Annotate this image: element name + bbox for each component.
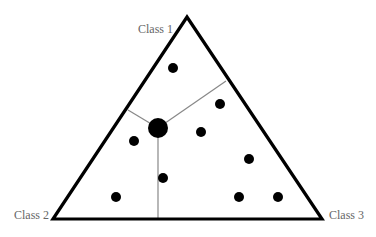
data-point [111,192,121,202]
data-point [168,63,178,73]
vertex-label-class1: Class 1 [138,22,173,36]
centroid-point [148,118,168,138]
data-point [215,99,225,109]
ternary-diagram: Class 1 Class 2 Class 3 [0,0,376,237]
vertex-label-class2: Class 2 [14,208,49,222]
data-point [244,154,254,164]
data-point [196,127,206,137]
data-point [234,192,244,202]
data-point [158,173,168,183]
simplex-triangle [53,17,322,219]
diagram-canvas: Class 1 Class 2 Class 3 [0,0,376,237]
data-point [273,192,283,202]
vertex-label-class3: Class 3 [329,208,364,222]
data-point [129,136,139,146]
